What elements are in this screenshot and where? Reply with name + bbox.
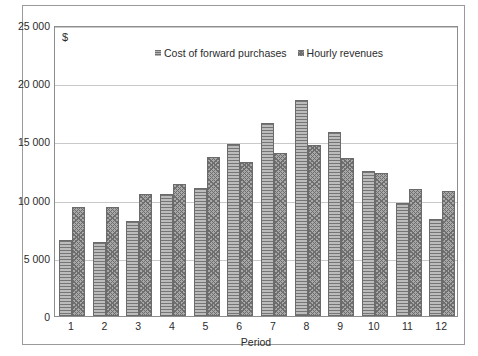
gridline: [55, 143, 457, 144]
y-axis-tick-label: 10 000: [0, 196, 50, 206]
bar[interactable]: [362, 171, 375, 317]
bar[interactable]: [375, 173, 388, 316]
bar[interactable]: [93, 242, 106, 316]
bar[interactable]: [194, 188, 207, 316]
gridline: [55, 27, 457, 28]
bar[interactable]: [274, 153, 287, 316]
legend-swatch-icon: [155, 50, 161, 56]
bar[interactable]: [308, 145, 321, 316]
x-axis-tick-label: 4: [155, 321, 189, 332]
x-axis-tick-label: 5: [189, 321, 223, 332]
bar[interactable]: [295, 100, 308, 317]
y-axis-tick-label: 0: [0, 312, 50, 322]
legend-label: Cost of forward purchases: [164, 47, 287, 59]
y-axis-tick-label: 15 000: [0, 137, 50, 147]
legend-label: Hourly revenues: [307, 47, 383, 59]
x-axis-tick-label: 7: [256, 321, 290, 332]
bar[interactable]: [442, 191, 455, 316]
bar[interactable]: [207, 157, 220, 316]
y-axis-unit-label: $: [62, 31, 68, 43]
bar[interactable]: [160, 194, 173, 316]
legend-item-cost-of-forward-purchases[interactable]: Cost of forward purchases: [155, 47, 287, 59]
bar[interactable]: [409, 189, 422, 316]
x-axis-tick-label: 11: [391, 321, 425, 332]
legend-swatch-icon: [298, 50, 304, 56]
x-axis-tick-label: 12: [424, 321, 458, 332]
bar[interactable]: [341, 158, 354, 316]
x-axis-tick-label: 1: [54, 321, 88, 332]
x-axis-tick-label: 8: [290, 321, 324, 332]
x-axis-tick-label: 9: [323, 321, 357, 332]
y-axis-tick-label: 25 000: [0, 21, 50, 31]
bar[interactable]: [429, 219, 442, 316]
x-axis-tick-label: 6: [222, 321, 256, 332]
bar[interactable]: [173, 184, 186, 316]
bar[interactable]: [328, 132, 341, 316]
y-axis-tick-label: 5 000: [0, 254, 50, 264]
x-axis-tick-label: 2: [88, 321, 122, 332]
bar[interactable]: [227, 144, 240, 316]
bar[interactable]: [139, 194, 152, 316]
bar[interactable]: [106, 207, 119, 316]
bar[interactable]: [72, 207, 85, 316]
bar[interactable]: [240, 162, 253, 316]
x-axis-tick-label: 10: [357, 321, 391, 332]
x-axis-tick-label: 3: [121, 321, 155, 332]
bar[interactable]: [126, 221, 139, 316]
bar[interactable]: [59, 240, 72, 316]
bar-chart: 05 00010 00015 00020 00025 000 $ Cost of…: [0, 0, 478, 356]
bar[interactable]: [396, 203, 409, 316]
x-axis-title: Period: [54, 336, 458, 348]
gridline: [55, 85, 457, 86]
legend-item-hourly-revenues[interactable]: Hourly revenues: [298, 47, 383, 59]
legend: Cost of forward purchases Hourly revenue…: [155, 47, 383, 59]
y-axis-tick-label: 20 000: [0, 79, 50, 89]
plot-area: [54, 26, 458, 317]
bar[interactable]: [261, 123, 274, 316]
